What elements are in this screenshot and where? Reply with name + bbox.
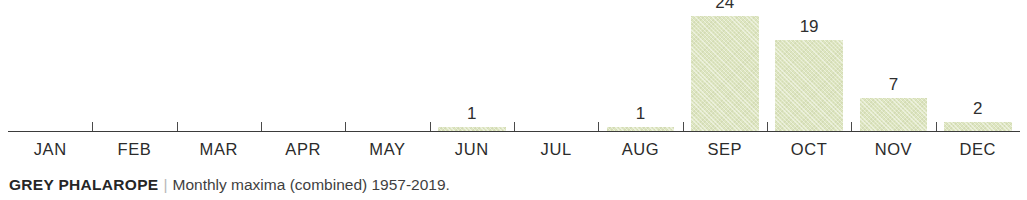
x-tick-label-aug: AUG: [598, 140, 682, 159]
x-axis-tick: [936, 122, 937, 131]
bar-series: 11241972: [8, 6, 1020, 132]
x-tick-label-feb: FEB: [92, 140, 176, 159]
x-tick-label-sep: SEP: [683, 140, 767, 159]
x-axis-tick: [261, 122, 262, 131]
x-tick-label-mar: MAR: [177, 140, 261, 159]
bar-column-jun: 1: [430, 6, 514, 132]
x-axis-ticks: [8, 122, 1020, 131]
bar-value-label: 24: [683, 0, 767, 13]
bar-column-dec: 2: [936, 6, 1020, 132]
chart-caption: GREY PHALAROPE|Monthly maxima (combined)…: [9, 176, 450, 194]
bar-column-feb: [92, 6, 176, 132]
bar-column-aug: 1: [598, 6, 682, 132]
bar-column-mar: [177, 6, 261, 132]
x-axis-tick: [514, 122, 515, 131]
bar-value-label: 19: [767, 17, 851, 37]
bar-value-label: 2: [936, 99, 1020, 119]
x-axis-tick: [598, 122, 599, 131]
bar-column-oct: 19: [767, 6, 851, 132]
bar-column-apr: [261, 6, 345, 132]
bar-column-jan: [8, 6, 92, 132]
x-axis-tick: [430, 122, 431, 131]
x-tick-label-apr: APR: [261, 140, 345, 159]
x-tick-label-jan: JAN: [8, 140, 92, 159]
x-tick-label-jun: JUN: [430, 140, 514, 159]
x-axis-tick: [683, 122, 684, 131]
x-tick-label-jul: JUL: [514, 140, 598, 159]
plot-area: 11241972: [8, 6, 1020, 132]
x-tick-label-nov: NOV: [851, 140, 935, 159]
x-axis-tick: [767, 122, 768, 131]
bar: [775, 40, 842, 132]
x-tick-label-may: MAY: [345, 140, 429, 159]
caption-species-name: GREY PHALAROPE: [9, 176, 158, 193]
x-tick-label-dec: DEC: [936, 140, 1020, 159]
x-axis-tick: [851, 122, 852, 131]
x-axis-tick-labels: JANFEBMARAPRMAYJUNJULAUGSEPOCTNOVDEC: [8, 140, 1020, 159]
x-tick-label-oct: OCT: [767, 140, 851, 159]
x-axis-tick: [345, 122, 346, 131]
x-axis-line: [8, 131, 1020, 132]
x-axis-tick: [92, 122, 93, 131]
bar: [691, 16, 758, 132]
bar-column-may: [345, 6, 429, 132]
x-axis-tick: [177, 122, 178, 131]
bar-column-jul: [514, 6, 598, 132]
bar-value-label: 7: [851, 75, 935, 95]
caption-separator: |: [158, 176, 172, 193]
top-text-remnant: [8, 0, 768, 5]
bar-column-nov: 7: [851, 6, 935, 132]
caption-detail: Monthly maxima (combined) 1957-2019.: [173, 176, 450, 193]
bar-chart-figure: 11241972 JANFEBMARAPRMAYJUNJULAUGSEPOCTN…: [0, 0, 1027, 200]
bar-column-sep: 24: [683, 6, 767, 132]
